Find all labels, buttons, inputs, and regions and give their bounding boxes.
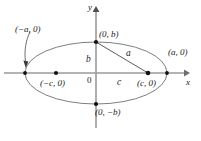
point-vertex-left xyxy=(23,71,27,75)
focus-left-label: (−c, 0) xyxy=(40,79,65,88)
focus-right-label: (c, 0) xyxy=(137,79,156,88)
segment-a-label: a xyxy=(126,49,131,59)
origin-label: 0 xyxy=(87,76,92,85)
point-focus-right xyxy=(146,71,151,76)
figure-canvas xyxy=(0,0,201,141)
covertex-bottom-label: (0, −b) xyxy=(95,108,121,117)
x-axis xyxy=(4,70,190,77)
segment-a-line xyxy=(96,42,148,73)
ellipse-figure: y x 0 (−a, 0) (a, 0) (0, b) (0, −b) (−c,… xyxy=(0,0,201,141)
point-covertex-top xyxy=(94,40,98,44)
vertex-right-label: (a, 0) xyxy=(168,48,188,57)
point-vertex-right xyxy=(165,71,169,75)
point-covertex-bottom xyxy=(94,102,98,106)
covertex-top-label: (0, b) xyxy=(99,30,119,39)
segment-c-label: c xyxy=(117,78,121,88)
vertex-left-label: (−a, 0) xyxy=(15,25,41,34)
y-axis-label: y xyxy=(88,3,92,12)
x-axis-label: x xyxy=(186,78,190,87)
point-focus-left xyxy=(54,71,58,75)
segment-b-label: b xyxy=(86,55,91,65)
